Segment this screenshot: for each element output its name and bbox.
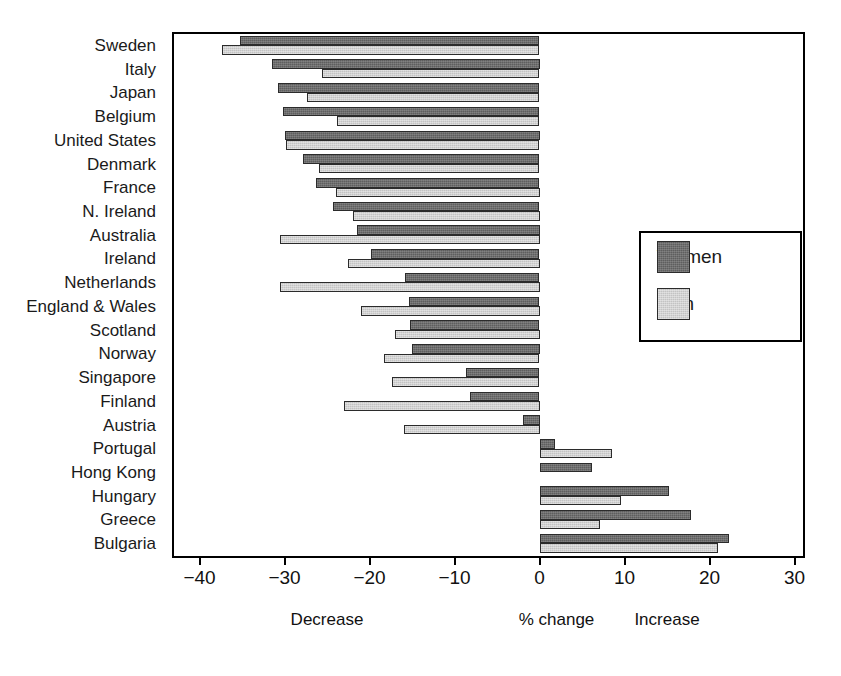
bar-women bbox=[405, 273, 539, 282]
y-label-belgium: Belgium bbox=[95, 108, 166, 125]
bar-row bbox=[174, 415, 803, 424]
bar-men bbox=[540, 520, 600, 529]
bar-row bbox=[174, 439, 803, 448]
bar-women bbox=[540, 463, 593, 472]
bar-row bbox=[174, 463, 803, 472]
bar-women bbox=[371, 249, 539, 258]
x-axis: −40−30−20−100102030Decrease% changeIncre… bbox=[0, 558, 841, 559]
legend-item-women: Women bbox=[657, 247, 722, 266]
x-tick-label: 20 bbox=[699, 567, 720, 589]
bar-men bbox=[361, 306, 540, 315]
bar-women bbox=[410, 320, 539, 329]
bar-row bbox=[174, 164, 803, 173]
bar-men bbox=[336, 188, 540, 197]
bar-men bbox=[307, 93, 539, 102]
y-label-austria: Austria bbox=[103, 417, 166, 434]
bar-row bbox=[174, 116, 803, 125]
x-tick-label: 10 bbox=[614, 567, 635, 589]
y-label-sweden: Sweden bbox=[95, 37, 166, 54]
bar-women bbox=[333, 202, 540, 211]
bar-row bbox=[174, 392, 803, 401]
bar-row bbox=[174, 188, 803, 197]
x-tick-label: −40 bbox=[183, 567, 215, 589]
bar-men bbox=[392, 377, 540, 386]
y-label-australia: Australia bbox=[90, 227, 166, 244]
x-tick-mark bbox=[284, 558, 286, 565]
bar-women bbox=[540, 534, 730, 543]
bar-men bbox=[322, 69, 540, 78]
bar-men bbox=[344, 401, 540, 410]
y-label-ireland: Ireland bbox=[104, 250, 166, 267]
bar-row bbox=[174, 344, 803, 353]
bar-men bbox=[222, 45, 540, 54]
y-label-japan: Japan bbox=[110, 84, 166, 101]
bar-men bbox=[395, 330, 540, 339]
y-label-singapore: Singapore bbox=[78, 369, 166, 386]
bar-women bbox=[540, 510, 691, 519]
x-tick-mark bbox=[369, 558, 371, 565]
bar-row bbox=[174, 486, 803, 495]
y-label-united-states: United States bbox=[54, 132, 166, 149]
bar-row bbox=[174, 83, 803, 92]
bar-row bbox=[174, 543, 803, 552]
y-label-italy: Italy bbox=[125, 61, 166, 78]
x-tick-label: −10 bbox=[438, 567, 470, 589]
y-label-england-wales: England & Wales bbox=[26, 298, 166, 315]
bar-men bbox=[353, 211, 540, 220]
y-label-portugal: Portugal bbox=[93, 440, 166, 457]
bar-row bbox=[174, 211, 803, 220]
bar-men bbox=[337, 116, 539, 125]
x-tick-mark bbox=[199, 558, 201, 565]
bar-row bbox=[174, 510, 803, 519]
bar-row bbox=[174, 449, 803, 458]
men-swatch bbox=[657, 288, 690, 320]
bar-row bbox=[174, 178, 803, 187]
bar-women bbox=[523, 415, 540, 424]
bar-men bbox=[319, 164, 539, 173]
axis-caption-change: % change bbox=[519, 610, 595, 630]
women-swatch bbox=[657, 241, 690, 273]
y-label-n-ireland: N. Ireland bbox=[82, 203, 166, 220]
axis-caption-decrease: Decrease bbox=[291, 610, 364, 630]
y-label-finland: Finland bbox=[100, 393, 166, 410]
y-label-hong-kong: Hong Kong bbox=[71, 464, 166, 481]
bar-men bbox=[404, 425, 540, 434]
bar-chart-figure: SwedenItalyJapanBelgiumUnited StatesDenm… bbox=[0, 0, 841, 676]
bar-row bbox=[174, 401, 803, 410]
bar-men bbox=[540, 449, 612, 458]
bar-row bbox=[174, 154, 803, 163]
bar-row bbox=[174, 496, 803, 505]
bar-women bbox=[412, 344, 540, 353]
bar-row bbox=[174, 534, 803, 543]
x-tick-mark bbox=[794, 558, 796, 565]
bar-women bbox=[283, 107, 540, 116]
bar-women bbox=[470, 392, 540, 401]
bar-women bbox=[272, 59, 540, 68]
bar-women bbox=[278, 83, 540, 92]
x-tick-label: 30 bbox=[784, 567, 805, 589]
y-label-norway: Norway bbox=[98, 345, 166, 362]
bar-women bbox=[285, 131, 540, 140]
y-label-bulgaria: Bulgaria bbox=[94, 535, 166, 552]
bar-men bbox=[280, 282, 539, 291]
y-axis-labels: SwedenItalyJapanBelgiumUnited StatesDenm… bbox=[0, 32, 166, 558]
bar-row bbox=[174, 377, 803, 386]
bar-women bbox=[540, 486, 669, 495]
bar-men bbox=[280, 235, 539, 244]
y-label-netherlands: Netherlands bbox=[64, 274, 166, 291]
axis-caption-increase: Increase bbox=[634, 610, 699, 630]
bar-women bbox=[540, 439, 555, 448]
x-tick-mark bbox=[709, 558, 711, 565]
x-tick-mark bbox=[539, 558, 541, 565]
bar-women bbox=[303, 154, 539, 163]
bar-row bbox=[174, 202, 803, 211]
bar-row bbox=[174, 368, 803, 377]
bar-women bbox=[357, 225, 540, 234]
bar-women bbox=[240, 36, 539, 45]
x-tick-label: 0 bbox=[534, 567, 545, 589]
legend-item-men: Men bbox=[657, 294, 694, 313]
y-label-greece: Greece bbox=[100, 511, 166, 528]
x-tick-mark bbox=[454, 558, 456, 565]
x-tick-label: −30 bbox=[268, 567, 300, 589]
chart-legend: Women Men bbox=[639, 231, 802, 342]
